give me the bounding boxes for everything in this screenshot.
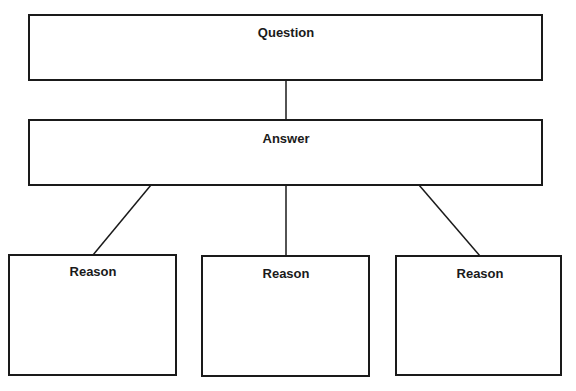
reason-node-2: Reason [202,256,369,376]
answer-box [29,120,542,185]
edge-answer-reason-3 [419,185,480,256]
answer-node: Answer [29,120,542,185]
question-answer-reason-diagram: Question Answer Reason Reason Reason [0,0,576,391]
reason-label-3: Reason [457,266,504,281]
reason-node-1: Reason [9,255,176,375]
reason-node-3: Reason [396,256,561,375]
question-node: Question [29,15,542,80]
edge-answer-reason-1 [93,185,151,255]
reason-label-1: Reason [70,264,117,279]
answer-label: Answer [263,131,310,146]
question-label: Question [258,25,314,40]
reason-label-2: Reason [263,266,310,281]
